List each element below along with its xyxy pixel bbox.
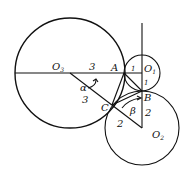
label-o2: O2: [152, 129, 164, 141]
label-o1: O1: [144, 63, 156, 75]
label-o3: O3: [52, 61, 64, 73]
geometry-diagram: O3 3 A 1 O1 1 α 3 C B β 2 2 O2: [0, 0, 184, 176]
alpha-arc-icon: [88, 80, 96, 88]
label-o3a-length: 3: [89, 61, 95, 72]
label-beta: β: [129, 105, 136, 116]
label-point-a: A: [110, 62, 118, 73]
label-o3c-length: 3: [82, 94, 88, 105]
label-o1b-length: 1: [144, 79, 148, 87]
label-alpha: α: [80, 82, 87, 93]
label-bo2-length: 2: [144, 107, 151, 118]
label-ao1-length: 1: [131, 65, 135, 73]
label-point-c: C: [101, 102, 109, 113]
label-co2-length: 2: [116, 118, 123, 129]
label-point-b: B: [143, 92, 151, 103]
